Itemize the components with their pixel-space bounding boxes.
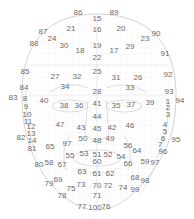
landmark-label: 17	[110, 47, 119, 55]
landmark-label: 98	[141, 177, 150, 185]
landmark-label: 53	[80, 150, 89, 158]
landmark-label: 100	[88, 204, 101, 212]
landmark-label: 35	[112, 102, 121, 110]
landmark-label: 70	[93, 182, 102, 190]
landmark-label: 31	[112, 74, 121, 82]
landmark-label: 46	[126, 122, 135, 130]
landmark-label: 77	[78, 203, 87, 211]
landmark-label: 99	[131, 186, 140, 194]
landmark-label: 88	[30, 40, 39, 48]
landmark-label: 34	[61, 83, 70, 91]
landmark-label: 75	[67, 185, 76, 193]
landmark-label: 71	[93, 192, 102, 200]
landmark-label: 52	[104, 151, 113, 159]
landmark-label: 15	[93, 15, 102, 23]
landmark-label: 58	[45, 159, 54, 167]
landmark-label: 83	[9, 94, 18, 102]
landmark-label: 38	[60, 102, 69, 110]
landmark-label: 80	[35, 161, 44, 169]
landmark-label: 39	[146, 99, 155, 107]
landmark-label: 47	[56, 121, 65, 129]
landmark-label: 18	[76, 47, 85, 55]
landmark-label: 63	[78, 168, 87, 176]
landmark-label: 37	[127, 101, 136, 109]
landmark-label: 28	[93, 88, 102, 96]
landmark-label: 84	[20, 84, 29, 92]
landmark-label: 50	[79, 135, 88, 143]
landmark-label: 29	[126, 43, 135, 51]
landmark-label: 79	[45, 180, 54, 188]
landmark-label: 22	[93, 54, 102, 62]
landmark-label: 72	[104, 182, 113, 190]
landmark-label: 24	[48, 35, 57, 43]
landmark-label: 56	[124, 142, 133, 150]
landmark-label: 91	[161, 50, 170, 58]
landmark-label: 20	[117, 25, 126, 33]
landmark-label: 97	[63, 140, 72, 148]
landmark-label: 96	[159, 148, 168, 156]
landmark-label: 3	[166, 111, 170, 119]
landmark-label: 81	[28, 145, 37, 153]
landmark-label: 68	[131, 174, 140, 182]
landmark-label: 45	[93, 125, 102, 133]
landmark-label: 36	[75, 102, 84, 110]
landmark-label: 64	[133, 147, 142, 155]
landmark-label: 86	[74, 9, 83, 17]
landmark-label: 41	[93, 100, 102, 108]
landmark-label: 42	[108, 124, 117, 132]
landmark-label: 92	[164, 71, 173, 79]
landmark-label: 27	[51, 73, 60, 81]
landmark-label: 40	[40, 97, 49, 105]
landmark-label: 33	[126, 84, 135, 92]
landmark-label: 25	[93, 68, 102, 76]
landmark-label: 43	[77, 124, 86, 132]
landmark-label: 26	[134, 74, 143, 82]
landmark-label: 60	[93, 158, 102, 166]
landmark-label: 30	[60, 42, 69, 50]
landmark-label: 16	[93, 26, 102, 34]
landmark-label: 93	[165, 88, 174, 96]
landmark-label: 67	[58, 161, 67, 169]
landmark-label: 49	[106, 135, 115, 143]
landmark-label: 82	[17, 134, 26, 142]
landmark-label: 89	[110, 9, 119, 17]
landmark-label: 21	[67, 25, 76, 33]
landmark-label: 69	[54, 176, 63, 184]
landmark-label: 73	[77, 181, 86, 189]
face-landmark-diagram: 8615898721162090242388301929181791228527…	[0, 0, 194, 219]
landmark-label: 95	[172, 136, 181, 144]
landmark-label: 97	[151, 159, 160, 167]
landmark-label: 59	[141, 158, 150, 166]
landmark-label: 23	[141, 35, 150, 43]
landmark-label: 76	[102, 203, 111, 211]
landmark-label: 48	[93, 137, 102, 145]
landmark-label: 94	[176, 97, 185, 105]
landmark-label: 74	[119, 184, 128, 192]
landmark-label: 78	[58, 192, 67, 200]
landmark-label: 85	[21, 68, 30, 76]
landmark-label: 65	[46, 143, 55, 151]
landmark-label: 66	[124, 160, 133, 168]
landmark-label: 19	[93, 42, 102, 50]
landmark-label: 44	[93, 113, 102, 121]
landmark-label: 55	[66, 152, 75, 160]
landmark-label: 90	[152, 30, 161, 38]
landmark-label: 61	[93, 170, 102, 178]
landmark-label: 87	[39, 28, 48, 36]
landmark-label: 62	[106, 170, 115, 178]
landmark-label: 32	[73, 73, 82, 81]
